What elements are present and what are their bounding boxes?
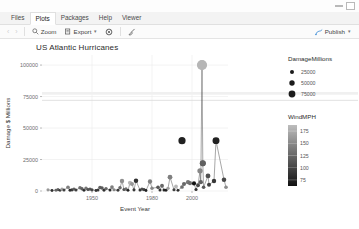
rstudio-plots-pane: Files Plots Packages Help Viewer ‹ › Zoo… — [0, 0, 359, 229]
tab-help-label: Help — [99, 14, 112, 21]
size-legend-label: 25000 — [301, 69, 316, 75]
maximize-icon[interactable] — [346, 2, 355, 10]
remove-circle-icon — [105, 28, 113, 36]
data-point — [156, 186, 160, 190]
data-point — [132, 188, 135, 191]
data-point — [90, 188, 93, 191]
colorbar-tick-label: 75 — [300, 177, 306, 183]
data-point — [207, 183, 211, 187]
chevron-down-icon: ▾ — [94, 29, 97, 34]
toolbar-separator-1 — [24, 27, 25, 36]
data-point-highlight — [178, 137, 185, 144]
data-point — [112, 188, 115, 191]
tab-help[interactable]: Help — [94, 12, 117, 25]
data-point — [134, 178, 138, 182]
data-point — [160, 184, 164, 188]
data-point — [196, 183, 200, 187]
toolbar-separator-2 — [120, 27, 121, 36]
data-point — [177, 189, 180, 192]
tab-plots-label: Plots — [36, 15, 50, 22]
broom-icon — [128, 28, 136, 36]
data-point — [150, 186, 153, 189]
data-point — [108, 189, 111, 192]
publish-button[interactable]: Publish ▾ — [311, 26, 355, 37]
data-point — [192, 181, 196, 185]
y-tick-label: 25000 — [23, 157, 38, 163]
plot-canvas: US Atlantic Hurricanes 02500050000750001… — [0, 39, 359, 229]
tab-viewer-label: Viewer — [122, 14, 141, 21]
size-legend-marker — [289, 80, 294, 85]
tab-plots[interactable]: Plots — [30, 12, 56, 25]
data-point — [74, 189, 77, 192]
data-point — [120, 179, 124, 183]
data-point-highlight — [197, 60, 207, 70]
publish-button-label: Publish — [325, 28, 345, 35]
data-point — [212, 179, 216, 183]
data-point — [158, 188, 161, 191]
data-point — [145, 189, 148, 192]
size-legend-label: 50000 — [301, 80, 316, 86]
data-point-highlight — [200, 160, 206, 166]
zoom-button-label: Zoom — [41, 28, 57, 35]
export-icon — [65, 28, 72, 35]
data-point — [127, 189, 130, 192]
data-point — [166, 187, 169, 190]
clear-all-plots-button[interactable] — [124, 26, 140, 37]
tab-files[interactable]: Files — [6, 12, 30, 25]
data-point — [202, 185, 206, 189]
size-legend-label: 75000 — [301, 91, 316, 97]
colorbar-tick-label: 150 — [300, 140, 309, 146]
pane-tab-strip: Files Plots Packages Help Viewer — [0, 12, 359, 25]
data-point — [224, 185, 228, 189]
data-point — [51, 189, 54, 192]
y-axis-title: Damage $ Millions — [4, 98, 11, 149]
y-tick-label: 0 — [35, 188, 38, 194]
zoom-button[interactable]: Zoom — [28, 26, 61, 37]
data-point — [182, 182, 186, 186]
color-legend-title: WindMPH — [288, 113, 316, 120]
tab-viewer[interactable]: Viewer — [117, 12, 146, 25]
colorbar-tick-label: 125 — [300, 153, 309, 159]
tab-packages-label: Packages — [61, 14, 89, 21]
y-tick-label: 75000 — [23, 94, 38, 100]
magnifier-icon — [32, 28, 39, 35]
size-legend-title: DamageMillions — [288, 55, 332, 62]
hurricanes-scatter-chart: 0250005000075000100000195019802000Event … — [0, 39, 359, 229]
data-point — [194, 188, 197, 191]
data-point — [168, 175, 173, 180]
data-point — [206, 173, 211, 178]
data-point — [46, 188, 49, 191]
plots-toolbar: ‹ › Zoom Export ▾ — [0, 25, 359, 39]
next-plot-icon[interactable]: › — [12, 28, 20, 35]
data-point — [148, 179, 152, 183]
previous-plot-icon[interactable]: ‹ — [4, 28, 12, 35]
data-point — [172, 188, 175, 191]
remove-plot-button[interactable] — [101, 26, 117, 37]
x-tick-label: 1950 — [86, 195, 98, 201]
data-point — [66, 185, 70, 189]
data-point — [130, 182, 134, 186]
data-point — [222, 177, 227, 182]
y-tick-label: 50000 — [23, 125, 38, 131]
window-controls — [335, 2, 355, 10]
data-point — [174, 185, 178, 189]
publish-icon — [315, 28, 323, 36]
minimize-icon[interactable] — [335, 5, 343, 7]
colorbar-tick-label: 100 — [300, 165, 309, 171]
data-point — [104, 187, 107, 190]
publish-chevron-down-icon: ▾ — [348, 29, 351, 34]
x-axis-title: Event Year — [120, 205, 150, 212]
data-point — [188, 181, 192, 185]
data-point — [118, 186, 122, 190]
export-button-label: Export — [74, 28, 92, 35]
x-tick-label: 2000 — [186, 195, 198, 201]
tab-files-label: Files — [11, 14, 25, 21]
tab-packages[interactable]: Packages — [56, 12, 94, 25]
export-button[interactable]: Export ▾ — [61, 26, 102, 37]
size-legend-marker — [290, 70, 294, 74]
data-point — [199, 180, 203, 184]
colorbar-tick-label: 175 — [300, 128, 309, 134]
data-point — [197, 168, 202, 173]
size-legend-marker — [289, 91, 296, 98]
x-tick-label: 1980 — [146, 195, 158, 201]
